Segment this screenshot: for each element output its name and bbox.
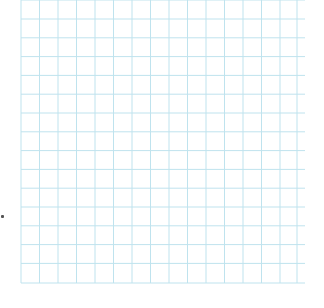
ink-speck	[1, 215, 4, 218]
horizontal-grid-lines	[21, 0, 305, 283]
vertical-grid-lines	[21, 0, 297, 283]
graph-paper-grid	[0, 0, 324, 308]
